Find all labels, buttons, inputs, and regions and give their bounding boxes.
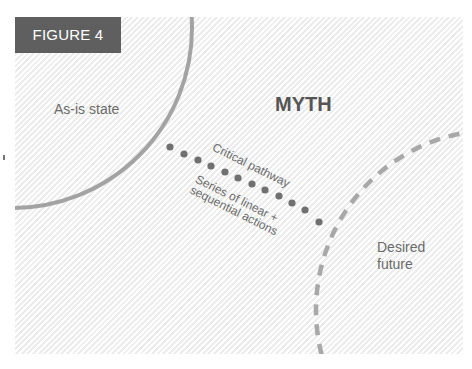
desired-future-label: Desired future bbox=[377, 239, 437, 273]
as-is-state-label: As-is state bbox=[54, 101, 119, 117]
diagram-shapes bbox=[15, 17, 463, 354]
diagram-title: MYTH bbox=[275, 93, 332, 116]
figure-label: FIGURE 4 bbox=[15, 17, 121, 53]
edge-artifact bbox=[3, 155, 5, 160]
figure-panel: FIGURE 4 As-is state MYTH Desired future… bbox=[15, 17, 463, 354]
